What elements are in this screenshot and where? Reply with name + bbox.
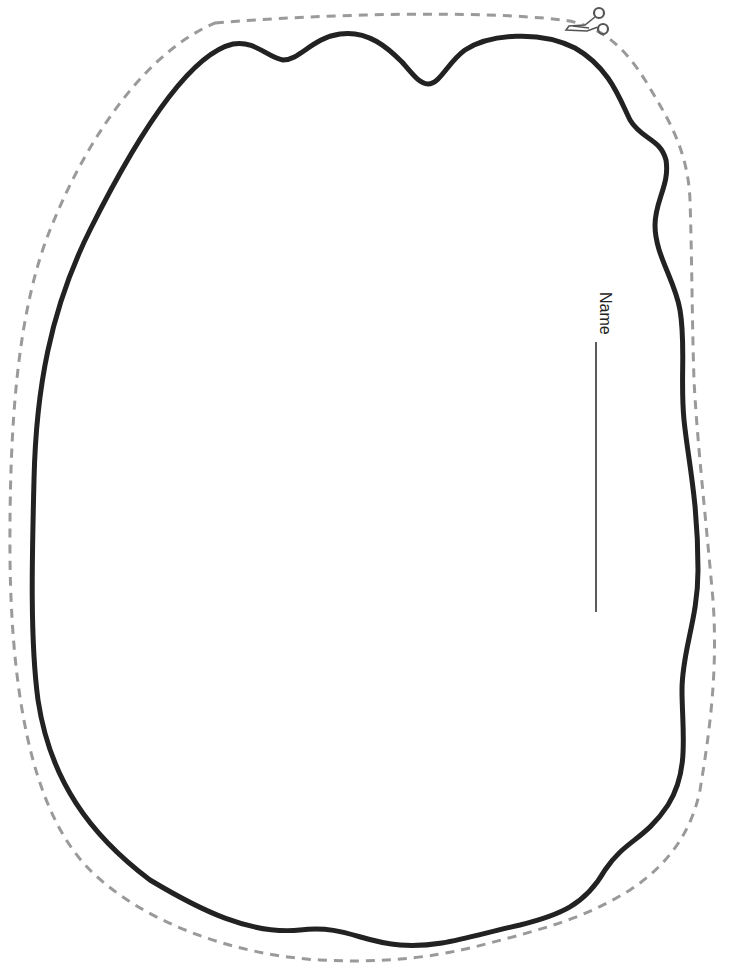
name-label: Name bbox=[597, 292, 614, 335]
dashed-cut-line bbox=[10, 14, 715, 961]
cutout-worksheet: Name bbox=[0, 0, 737, 978]
shape-outline bbox=[32, 33, 698, 945]
name-field: Name bbox=[597, 292, 614, 335]
